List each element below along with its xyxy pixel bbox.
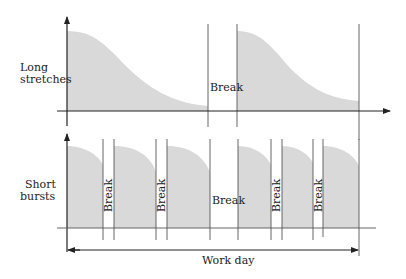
burst-1 bbox=[67, 146, 103, 228]
bottom-row-label-2: bursts bbox=[20, 190, 55, 203]
long-stretch-curve-2 bbox=[237, 31, 359, 111]
break-label: Break bbox=[212, 194, 245, 207]
break-label-vertical: Break bbox=[270, 179, 283, 212]
top-panel: Long stretches Break bbox=[20, 17, 390, 140]
burst-6 bbox=[323, 146, 359, 228]
break-label-vertical: Break bbox=[102, 179, 115, 212]
burst-4 bbox=[238, 146, 271, 228]
work-day-label: Work day bbox=[202, 254, 255, 267]
work-pattern-diagram: Long stretches Break Short bursts Break … bbox=[0, 0, 406, 279]
break-label-vertical: Break bbox=[312, 179, 325, 212]
work-day-span: Work day bbox=[68, 250, 358, 267]
long-stretch-curve-1 bbox=[67, 31, 208, 111]
bottom-panel: Short bursts Break Break Break Break Bre… bbox=[20, 134, 376, 256]
burst-2 bbox=[114, 146, 156, 228]
break-label: Break bbox=[210, 81, 243, 94]
top-row-label-2: stretches bbox=[20, 73, 72, 86]
burst-5 bbox=[282, 146, 313, 228]
burst-3 bbox=[167, 146, 210, 228]
break-label-vertical: Break bbox=[155, 179, 168, 212]
